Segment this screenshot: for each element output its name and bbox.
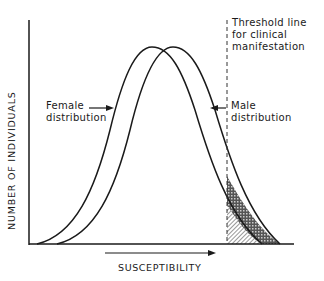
threshold-label: Threshold line for clinical manifestatio… xyxy=(232,17,307,53)
susceptibility-arrowhead-icon xyxy=(208,250,216,256)
female-distribution-label: Female distribution xyxy=(46,100,107,124)
male-distribution-label: Male distribution xyxy=(231,100,292,124)
female-arrowhead-icon xyxy=(106,105,114,111)
y-axis-label: NUMBER OF INDIVIDUALS xyxy=(6,91,17,230)
x-axis-label: SUSCEPTIBILITY xyxy=(118,262,201,273)
